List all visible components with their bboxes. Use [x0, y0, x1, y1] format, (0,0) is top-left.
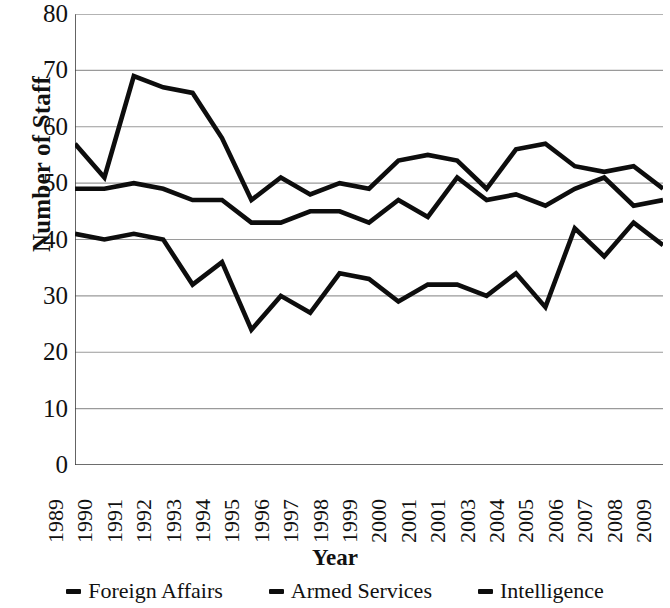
- x-tick-label: 2005: [515, 468, 537, 543]
- x-tick-label: 1989: [45, 468, 67, 543]
- series-line: [75, 177, 663, 222]
- x-tick-label: 2003: [457, 468, 479, 543]
- x-tick-label: 2001: [427, 468, 449, 543]
- chart-legend: Foreign AffairsArmed ServicesIntelligenc…: [0, 578, 670, 604]
- x-tick-label: 2009: [633, 468, 655, 543]
- dash-marker-icon: [66, 589, 81, 594]
- dash-marker-icon: [478, 589, 493, 594]
- series-line: [75, 223, 663, 330]
- x-tick-label: 2006: [545, 468, 567, 543]
- x-tick-label: 1994: [192, 468, 214, 543]
- series-line: [75, 76, 663, 200]
- x-tick-label: 1996: [251, 468, 273, 543]
- x-axis-title: Year: [0, 545, 670, 571]
- y-tick-label: 30: [16, 283, 68, 308]
- legend-label: Intelligence: [500, 578, 604, 604]
- line-chart-figure: Number of Staff 80706050403020100 198919…: [0, 0, 670, 608]
- legend-label: Armed Services: [291, 578, 432, 604]
- x-tick-label: 2008: [604, 468, 626, 543]
- x-tick-label: 1992: [133, 468, 155, 543]
- y-tick-label: 10: [16, 396, 68, 421]
- legend-item[interactable]: Intelligence: [478, 578, 604, 604]
- x-tick-label: 2007: [574, 468, 596, 543]
- x-tick-label: 1999: [339, 468, 361, 543]
- plot-svg: [75, 14, 663, 465]
- dash-marker-icon: [269, 589, 284, 594]
- y-tick-label: 40: [16, 227, 68, 252]
- x-tick-label: 1993: [163, 468, 185, 543]
- y-tick-label: 20: [16, 339, 68, 364]
- y-tick-label: 70: [16, 57, 68, 82]
- y-tick-label: 80: [16, 1, 68, 26]
- x-tick-label: 2004: [486, 468, 508, 543]
- legend-label: Foreign Affairs: [88, 578, 223, 604]
- y-tick-label: 60: [16, 114, 68, 139]
- plot-area: [75, 14, 663, 465]
- x-tick-label: 2001: [398, 468, 420, 543]
- x-tick-label: 1998: [310, 468, 332, 543]
- x-tick-label: 1990: [74, 468, 96, 543]
- x-tick-label: 1997: [280, 468, 302, 543]
- gridlines: [75, 14, 663, 409]
- x-tick-label: 2000: [368, 468, 390, 543]
- y-axis-tick-labels: 80706050403020100: [8, 0, 68, 480]
- y-tick-label: 50: [16, 170, 68, 195]
- x-tick-label: 1995: [221, 468, 243, 543]
- legend-item[interactable]: Armed Services: [269, 578, 432, 604]
- x-axis-tick-labels: 1989199019911992199319941995199619971998…: [75, 468, 663, 543]
- x-tick-label: 1991: [104, 468, 126, 543]
- legend-item[interactable]: Foreign Affairs: [66, 578, 223, 604]
